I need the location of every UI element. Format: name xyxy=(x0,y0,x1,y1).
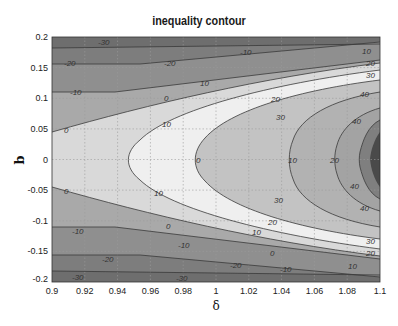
contour-label: 0 xyxy=(164,94,169,103)
x-axis: 0.9 0.92 0.94 0.96 0.98 1 1.02 1.04 1.06… xyxy=(46,286,387,296)
x-tick-label: 1.04 xyxy=(273,286,291,296)
contour-label: -30 xyxy=(72,273,84,282)
contour-label: 20 xyxy=(365,249,375,258)
contour-label: -10 xyxy=(72,227,84,236)
contour-label: 0 xyxy=(64,187,69,196)
contour-label: 20 xyxy=(365,59,375,68)
y-tick-label: -0.15 xyxy=(27,246,48,256)
contour-label: 40 xyxy=(350,182,359,191)
contour-label: -10 xyxy=(240,48,252,57)
contour-label: -10 xyxy=(280,265,292,274)
contour-label: 10 xyxy=(348,262,357,271)
y-axis-label: b xyxy=(12,155,27,164)
contour-label: 0 xyxy=(270,249,275,258)
y-tick-label: 0.15 xyxy=(30,63,48,73)
x-tick-label: 1.1 xyxy=(374,286,387,296)
x-tick-label: 1.08 xyxy=(338,286,356,296)
x-tick-label: 0.98 xyxy=(174,286,192,296)
x-tick-label: 0.94 xyxy=(109,286,127,296)
contour-label: 10 xyxy=(162,120,171,129)
contour-label: -20 xyxy=(164,59,176,68)
y-tick-label: 0 xyxy=(43,155,48,165)
contour-label: 30 xyxy=(366,237,375,246)
x-tick-label: 0.96 xyxy=(142,286,160,296)
contour-label: 10 xyxy=(200,79,209,88)
contour-label: -30 xyxy=(98,38,110,47)
x-tick-label: 1.02 xyxy=(240,286,258,296)
contour-label: 10 xyxy=(154,189,163,198)
contour-label: 0 xyxy=(64,126,69,135)
contour-label: 30 xyxy=(274,196,283,205)
contour-label: 10 xyxy=(288,156,297,165)
y-tick-label: 0.2 xyxy=(35,32,48,42)
contour-label: -10 xyxy=(70,88,82,97)
y-tick-label: -0.1 xyxy=(32,216,48,226)
contour-label: 40 xyxy=(352,117,361,126)
y-tick-label: 0.1 xyxy=(35,93,48,103)
contour-label: 40 xyxy=(360,204,369,213)
contour-label: -20 xyxy=(230,261,242,270)
contour-label: 40 xyxy=(360,90,369,99)
y-tick-label: -0.2 xyxy=(32,274,48,284)
contour-label: -20 xyxy=(102,255,114,264)
y-tick-label: 0.05 xyxy=(30,124,48,134)
y-tick-label: -0.05 xyxy=(27,185,48,195)
contour-label: 20 xyxy=(270,95,280,104)
contour-label: 30 xyxy=(366,71,375,80)
contour-label: 10 xyxy=(252,228,261,237)
contour-label: 0 xyxy=(196,156,201,165)
x-tick-label: 1.06 xyxy=(306,286,324,296)
contour-label: 20 xyxy=(329,156,339,165)
x-tick-label: 0.9 xyxy=(46,286,59,296)
x-tick-label: 1 xyxy=(213,286,218,296)
x-tick-label: 0.92 xyxy=(76,286,94,296)
y-axis: 0.2 0.15 0.1 0.05 0 -0.05 -0.1 -0.15 -0.… xyxy=(27,32,48,284)
contour-label: 20 xyxy=(267,218,277,227)
contour-label: 30 xyxy=(276,113,285,122)
contour-label: -20 xyxy=(64,59,76,68)
x-axis-label: δ xyxy=(212,299,219,313)
contour-label: -10 xyxy=(178,241,190,250)
contour-label: 0 xyxy=(166,222,171,231)
contour-chart: -30 -20 -10 0 -20 -10 0 10 10 20 30 10 2… xyxy=(0,0,398,326)
contour-label: 10 xyxy=(362,47,371,56)
